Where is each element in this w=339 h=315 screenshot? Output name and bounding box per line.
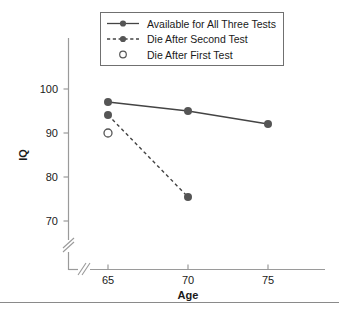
series-die-after-second-test bbox=[104, 111, 192, 201]
y-axis-title: IQ bbox=[17, 149, 29, 161]
data-point-marker bbox=[264, 120, 272, 128]
series-die-after-first-test bbox=[104, 129, 112, 137]
y-tick-label-100: 100 bbox=[40, 83, 58, 95]
iq-by-age-line-chart: Available for All Three Tests Die After … bbox=[0, 0, 339, 315]
x-tick-label-70: 70 bbox=[182, 274, 194, 286]
data-point-marker bbox=[104, 111, 112, 119]
series-available-for-all-three-tests bbox=[104, 98, 272, 128]
bottom-divider bbox=[0, 302, 339, 303]
x-axis-title: Age bbox=[178, 289, 199, 301]
y-tick-label-90: 90 bbox=[46, 127, 58, 139]
x-axis: 65 70 75 Age bbox=[69, 263, 326, 301]
data-point-marker bbox=[184, 107, 192, 115]
data-point-marker-open bbox=[104, 129, 112, 137]
legend-label-3: Die After First Test bbox=[147, 49, 233, 61]
data-point-marker bbox=[184, 193, 192, 201]
y-tick-label-80: 80 bbox=[46, 171, 58, 183]
series-2-line bbox=[108, 115, 188, 197]
legend-filled-circle-icon bbox=[120, 20, 126, 26]
x-tick-label-65: 65 bbox=[102, 274, 114, 286]
x-tick-label-75: 75 bbox=[262, 274, 274, 286]
legend-label-1: Available for All Three Tests bbox=[147, 18, 276, 30]
y-tick-label-70: 70 bbox=[46, 215, 58, 227]
data-point-marker bbox=[104, 98, 112, 106]
chart-figure: Available for All Three Tests Die After … bbox=[0, 0, 339, 315]
x-axis-break-icon bbox=[78, 263, 90, 275]
legend-open-circle-icon bbox=[120, 51, 127, 58]
legend-filled-circle-icon-2 bbox=[120, 36, 126, 42]
y-axis: 100 90 80 70 IQ bbox=[17, 38, 74, 270]
legend-label-2: Die After Second Test bbox=[147, 33, 248, 45]
chart-legend: Available for All Three Tests Die After … bbox=[101, 13, 284, 66]
y-axis-break-icon bbox=[63, 238, 74, 252]
